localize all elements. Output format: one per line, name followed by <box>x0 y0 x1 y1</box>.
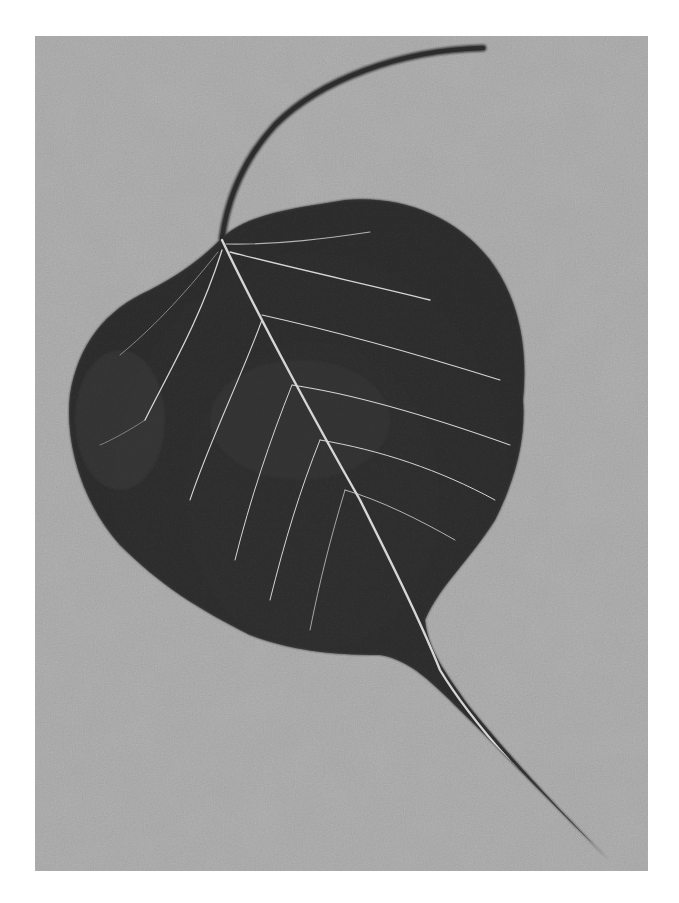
leaf-photograph <box>0 0 679 903</box>
